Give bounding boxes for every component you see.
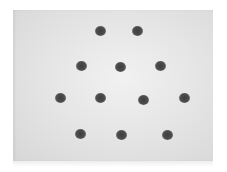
dot	[138, 95, 149, 105]
dot	[76, 61, 87, 71]
dot	[115, 62, 126, 72]
card-background	[13, 10, 213, 161]
bottom-edge-artifact	[13, 161, 213, 167]
dot	[95, 26, 106, 36]
dot	[75, 129, 86, 139]
dot	[155, 61, 166, 71]
dot	[55, 93, 66, 103]
dot	[116, 130, 127, 140]
dot	[132, 26, 143, 36]
dot	[162, 130, 173, 140]
dot	[95, 93, 106, 103]
dot	[179, 93, 190, 103]
